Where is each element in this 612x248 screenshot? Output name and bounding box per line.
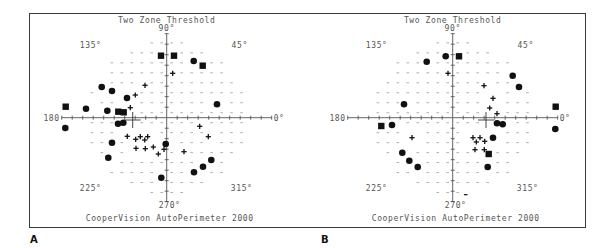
plus-marker <box>482 139 487 144</box>
fixation-cross <box>125 112 141 128</box>
circle-marker <box>200 163 207 170</box>
plus-marker <box>170 71 175 76</box>
circle-marker <box>516 84 523 91</box>
plot-footer: CooperVision AutoPerimeter 2000 <box>372 214 540 223</box>
plus-marker <box>409 135 414 140</box>
circle-marker <box>490 134 497 141</box>
plus-marker <box>181 149 186 154</box>
label-270: 270° <box>445 201 467 210</box>
circle-marker <box>158 174 165 181</box>
series-circles <box>389 53 559 170</box>
circle-marker <box>208 157 215 164</box>
label-45: 45° <box>518 41 534 50</box>
square-marker <box>121 109 127 115</box>
plus-marker <box>133 146 138 151</box>
plus-marker <box>133 137 138 142</box>
label-180: 180 <box>329 114 345 123</box>
panel-label-a: A <box>30 234 38 245</box>
label-225: 225° <box>80 184 102 193</box>
circle-marker <box>401 101 408 108</box>
label-90: 90° <box>159 24 175 33</box>
circle-marker <box>499 121 506 128</box>
plus-marker <box>143 146 148 151</box>
plus-marker <box>494 111 499 116</box>
plus-marker <box>197 124 202 129</box>
visual-field-plots: Two Zone Threshold90°135°45°1800°225°315… <box>0 0 612 248</box>
fixation-cross <box>478 112 494 128</box>
plus-marker <box>128 105 133 110</box>
plot-footer: CooperVision AutoPerimeter 2000 <box>86 214 254 223</box>
square-marker <box>158 53 164 59</box>
circle-marker <box>406 157 413 164</box>
label-225: 225° <box>366 184 388 193</box>
label-135: 135° <box>80 41 102 50</box>
axes <box>62 34 272 202</box>
circle-marker <box>509 72 516 79</box>
circle-marker <box>109 139 116 146</box>
label-0: 0° <box>274 114 285 123</box>
plus-marker <box>156 151 161 156</box>
circle-marker <box>120 119 127 126</box>
perimetry-figure: Two Zone Threshold90°135°45°1800°225°315… <box>0 0 612 248</box>
circle-marker <box>62 125 69 132</box>
circle-marker <box>423 58 430 65</box>
plus-marker <box>161 147 166 152</box>
plus-marker <box>472 147 477 152</box>
square-marker <box>200 63 206 69</box>
circle-marker <box>190 58 197 65</box>
label-0: 0° <box>560 114 571 123</box>
circle-marker <box>124 95 131 102</box>
circle-marker <box>442 53 449 60</box>
circle-marker <box>98 84 105 91</box>
circle-marker <box>414 164 421 171</box>
square-marker <box>171 53 177 59</box>
plus-marker <box>125 134 130 139</box>
circle-marker <box>552 126 559 133</box>
label-135: 135° <box>366 41 388 50</box>
axes <box>348 34 558 202</box>
plus-marker <box>470 135 475 140</box>
square-marker <box>553 104 559 110</box>
plus-marker <box>206 134 211 139</box>
circle-marker <box>389 122 396 129</box>
circle-marker <box>399 149 406 156</box>
label-315: 315° <box>231 184 253 193</box>
square-marker <box>456 53 462 59</box>
plus-marker <box>142 83 147 88</box>
label-90: 90° <box>445 24 461 33</box>
series-plus <box>409 71 499 153</box>
label-45: 45° <box>232 41 248 50</box>
label-315: 315° <box>517 184 539 193</box>
label-270: 270° <box>159 201 181 210</box>
plot-panel-a: Two Zone Threshold90°135°45°1800°225°315… <box>43 16 284 223</box>
plot-panel-b: Two Zone Threshold90°135°45°1800°225°315… <box>329 16 570 223</box>
square-marker <box>486 151 492 157</box>
plus-marker <box>145 134 150 139</box>
circle-marker <box>105 154 112 161</box>
circle-marker <box>83 105 90 112</box>
circle-marker <box>191 169 198 176</box>
plus-marker <box>487 105 492 110</box>
circle-marker <box>109 88 116 95</box>
panel-label-b: B <box>321 234 329 245</box>
label-180: 180 <box>43 114 59 123</box>
circle-marker <box>484 164 491 171</box>
circle-marker <box>494 120 501 127</box>
plus-marker <box>445 71 450 76</box>
square-marker <box>378 123 384 129</box>
circle-marker <box>104 107 111 114</box>
plus-marker <box>133 92 138 97</box>
plus-marker <box>481 83 486 88</box>
plus-marker <box>490 96 495 101</box>
plus-marker <box>477 135 482 140</box>
plus-marker <box>151 144 156 149</box>
circle-marker <box>214 101 221 108</box>
plus-marker <box>474 139 479 144</box>
circle-marker <box>162 141 169 148</box>
series-squares <box>63 53 206 116</box>
plus-marker <box>138 134 143 139</box>
plus-marker <box>142 137 147 142</box>
square-marker <box>63 104 69 110</box>
